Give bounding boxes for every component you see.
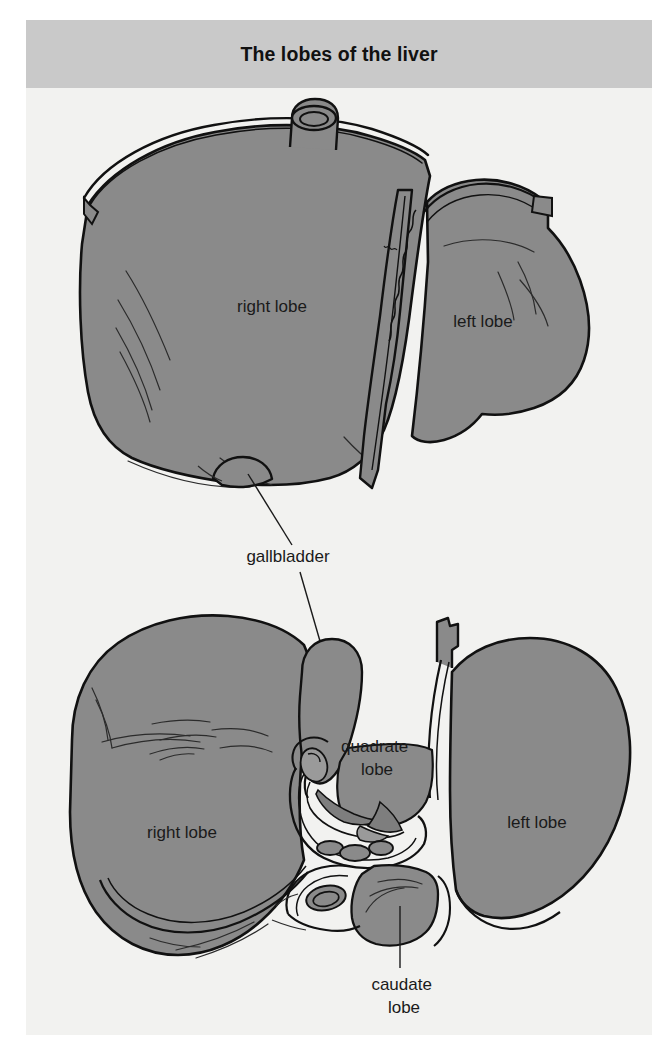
label-quadrate-lobe-line1: quadrate bbox=[341, 737, 408, 756]
anterior-view-group: right lobe left lobe bbox=[80, 99, 589, 488]
inferior-view-group: right lobe left lobe quadrate lobe cauda… bbox=[70, 615, 630, 1017]
liver-illustration: right lobe left lobe gallbladder bbox=[0, 0, 670, 1051]
label-right-lobe-inferior: right lobe bbox=[147, 823, 217, 842]
label-right-lobe-anterior: right lobe bbox=[237, 297, 307, 316]
label-gallbladder: gallbladder bbox=[246, 547, 330, 566]
left-lobe-ligament-tab bbox=[532, 196, 552, 216]
label-caudate-lobe-line2: lobe bbox=[388, 998, 420, 1017]
vessel-cross-section-2 bbox=[340, 845, 370, 861]
label-quadrate-lobe-line2: lobe bbox=[361, 760, 393, 779]
liver-lobes-figure: The lobes of the liver bbox=[0, 0, 670, 1051]
vessel-cross-section-3 bbox=[369, 841, 393, 855]
label-left-lobe-anterior: left lobe bbox=[453, 312, 513, 331]
label-caudate-lobe: caudate lobe bbox=[371, 975, 436, 1017]
caudate-lobe-shape bbox=[351, 865, 438, 945]
label-left-lobe-inferior: left lobe bbox=[507, 813, 567, 832]
label-caudate-lobe-line1: caudate bbox=[371, 975, 432, 994]
vessel-cross-section-1 bbox=[317, 841, 343, 855]
left-lobe-inferior-shape bbox=[450, 638, 630, 918]
inferior-vena-cava-anterior bbox=[290, 99, 338, 150]
left-lobe-anterior-shape bbox=[412, 180, 589, 442]
